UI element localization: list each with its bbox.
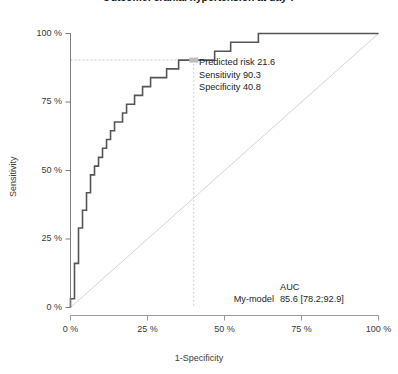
legend-row: My-model85.6 [78.2;92.9]	[218, 293, 344, 305]
legend-auc-value: 85.6 [78.2;92.9]	[274, 293, 344, 305]
x-tick-label-3: 75 %	[277, 324, 327, 334]
x-tick-label-0: 0 %	[46, 324, 96, 334]
y-axis-title: Sensitivity	[8, 156, 18, 197]
legend-model-label: My-model	[218, 293, 274, 305]
y-tick-label-4: 100 %	[14, 28, 62, 38]
legend-auc-header: AUC	[218, 281, 344, 293]
operating-point-annotation: Predicted risk 21.6 Sensitivity 90.3 Spe…	[199, 56, 275, 94]
annotation-predicted-risk: Predicted risk 21.6	[199, 56, 275, 69]
roc-chart-figure: Outcome: cranial hypertension at day 7 0…	[0, 0, 398, 374]
y-axis-ticks	[66, 34, 71, 308]
x-axis-ticks	[71, 316, 379, 321]
operating-point-marker	[189, 58, 198, 63]
auc-legend: AUC My-model85.6 [78.2;92.9]	[218, 281, 344, 305]
x-tick-label-2: 50 %	[200, 324, 250, 334]
annotation-sensitivity: Sensitivity 90.3	[199, 69, 275, 82]
x-tick-label-1: 25 %	[123, 324, 173, 334]
y-tick-label-3: 75 %	[14, 96, 62, 106]
y-tick-label-1: 25 %	[14, 233, 62, 243]
x-tick-label-4: 100 %	[354, 324, 398, 334]
x-axis-title: 1-Specificity	[0, 353, 398, 363]
y-tick-label-2: 50 %	[14, 165, 62, 175]
y-tick-label-0: 0 %	[14, 302, 62, 312]
annotation-specificity: Specificity 40.8	[199, 81, 275, 94]
